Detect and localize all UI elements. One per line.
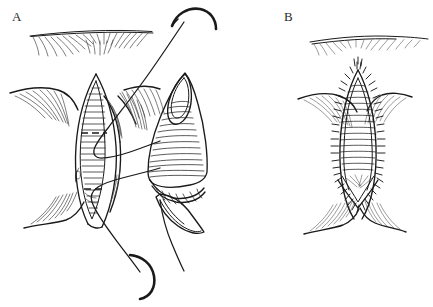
panel-label-b: B xyxy=(284,10,293,23)
surgical-illustration xyxy=(0,0,433,307)
panel-label-a: A xyxy=(12,10,22,23)
figure-container: A B xyxy=(0,0,433,307)
